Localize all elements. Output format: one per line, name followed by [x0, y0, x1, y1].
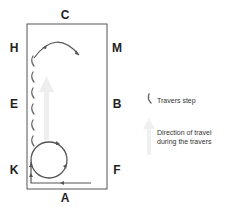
entry-path	[31, 162, 91, 183]
label-k: K	[10, 164, 19, 176]
travers-steps	[32, 56, 34, 146]
label-m: M	[112, 42, 122, 54]
top-arc-path	[34, 42, 79, 58]
legend-travers-step: Travers step	[157, 96, 196, 105]
legend-step-icon	[148, 94, 151, 103]
label-h: H	[10, 42, 19, 54]
label-a: A	[61, 192, 70, 204]
label-b: B	[113, 98, 122, 110]
legend-direction-icon	[143, 118, 155, 155]
label-f: F	[113, 164, 120, 176]
label-e: E	[10, 98, 18, 110]
legend-direction-line1: Direction of travel	[157, 128, 211, 137]
label-c: C	[61, 9, 70, 21]
legend-direction-line2: during the travers	[157, 137, 211, 146]
volte-circle	[31, 142, 67, 178]
direction-arrow	[39, 76, 54, 140]
